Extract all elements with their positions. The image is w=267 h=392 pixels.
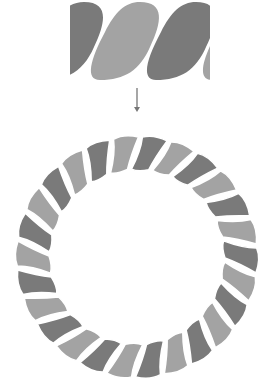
rope-diagram xyxy=(0,0,267,392)
strand xyxy=(203,2,267,80)
ring-segment xyxy=(164,332,188,374)
rope-segment xyxy=(35,2,267,80)
ring-segment xyxy=(86,140,110,182)
down-arrow-icon xyxy=(134,88,140,112)
rope-ring xyxy=(15,136,258,378)
